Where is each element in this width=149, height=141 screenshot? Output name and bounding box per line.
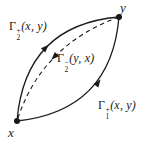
- gamma-subscript: 1: [105, 114, 109, 121]
- middle-dashed-curve-label: Γ−2(y, x): [57, 51, 94, 73]
- path-diagram: Γ+2(x, y) Γ−2(y, x) Γ+1(x, y) y x: [0, 0, 149, 141]
- lower-curve-label: Γ+1(x, y): [98, 98, 136, 120]
- gamma-arguments: (x, y): [21, 19, 47, 33]
- upper-curve-label: Γ+2(x, y): [9, 19, 47, 41]
- gamma-subscript: 2: [16, 35, 20, 42]
- point-y-label: y: [120, 1, 126, 14]
- gamma-symbol: Γ: [9, 19, 16, 33]
- gamma-symbol: Γ: [57, 51, 64, 65]
- gamma-arguments: (y, x): [69, 51, 94, 65]
- gamma-arguments: (x, y): [110, 98, 136, 112]
- point-x-label: x: [8, 126, 14, 139]
- gamma-symbol: Γ: [98, 98, 105, 112]
- gamma-subscript: 2: [64, 67, 68, 74]
- point-x-dot: [14, 118, 20, 124]
